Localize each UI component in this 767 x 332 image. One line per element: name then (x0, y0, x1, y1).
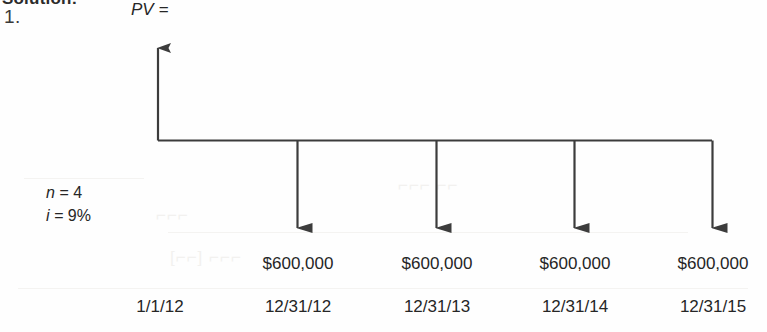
timeline-date-label: 12/31/14 (542, 297, 608, 317)
timeline-date-label: 12/31/13 (404, 297, 470, 317)
timeline-axis-graphic (0, 0, 767, 332)
cash-flow-amount: $600,000 (678, 254, 749, 274)
timeline-date-label: 12/31/15 (680, 297, 746, 317)
cash-flow-amount: $600,000 (402, 254, 473, 274)
cash-flow-amount: $600,000 (263, 254, 334, 274)
timeline-date-label: 12/31/12 (265, 297, 331, 317)
timeline-figure: ⌐⌐⌐ ⌐⌐ [⌐⌐] ⌐⌐⌐ ⌐⌐⌐ Solution: 1. PV = n … (0, 0, 767, 332)
timeline-date-label: 1/1/12 (136, 297, 183, 317)
cash-flow-amount: $600,000 (540, 254, 611, 274)
